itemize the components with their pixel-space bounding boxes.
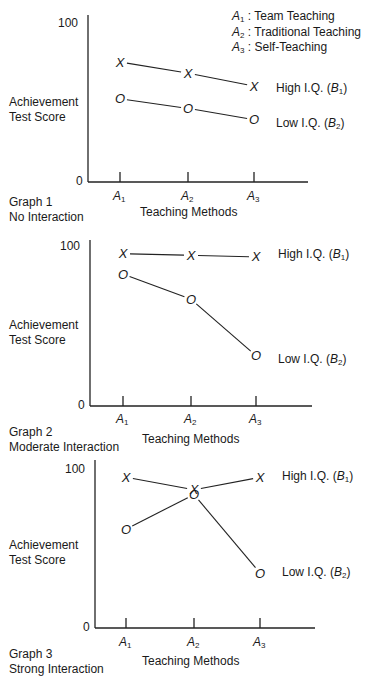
high-iq-label: High I.Q. (B1) — [282, 469, 353, 487]
low-iq-label: Low I.Q. (B2) — [282, 565, 350, 583]
high-iq-segment — [133, 479, 187, 489]
x-axis-label: Teaching Methods — [142, 654, 239, 669]
high-iq-marker: X — [121, 470, 132, 485]
low-iq-segment — [132, 498, 188, 526]
plot-area: XXXOOO — [0, 0, 377, 687]
high-iq-marker: X — [255, 470, 266, 485]
high-iq-segment — [201, 479, 253, 489]
low-iq-marker: O — [255, 566, 265, 581]
low-iq-marker: O — [121, 522, 131, 537]
y-tick-0: 0 — [83, 620, 90, 635]
graph-title: Graph 3Strong Interaction — [9, 647, 104, 677]
low-iq-marker: O — [189, 487, 199, 502]
x-tick-label: A3 — [253, 635, 265, 653]
y-axis-label: AchievementTest Score — [9, 538, 78, 568]
y-tick-100: 100 — [65, 462, 85, 477]
x-tick-label: A1 — [119, 635, 131, 653]
x-tick-label: A2 — [187, 635, 199, 653]
low-iq-segment — [199, 500, 256, 568]
